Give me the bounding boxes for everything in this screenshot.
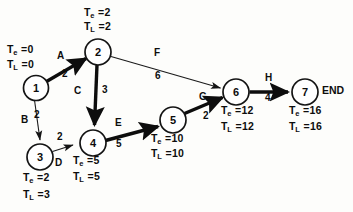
node-1-tl-value: 0 (28, 58, 34, 70)
edge-E-letter: E (115, 118, 122, 129)
node-3-te-value: 2 (43, 171, 49, 183)
node-4-tl: TL =5 (73, 171, 100, 182)
node-4-tl-value: 5 (94, 170, 100, 182)
node-5-te-value: 10 (171, 132, 183, 144)
edge-F-duration: 6 (155, 71, 161, 82)
node-4-te-value: 5 (93, 154, 99, 166)
node-7-number: 7 (302, 86, 308, 98)
node-6-tl: TL =12 (221, 121, 254, 132)
edge-C (95, 65, 98, 125)
edge-G-letter: G (199, 92, 207, 103)
node-2-tl: TL =2 (84, 21, 111, 32)
node-7-te-value: 16 (309, 104, 321, 116)
node-7-tl: TL =16 (289, 121, 322, 132)
node-1-te-value: 0 (27, 43, 33, 55)
edge-A-duration: 2 (62, 69, 68, 80)
edge-A-letter: A (57, 51, 64, 62)
node-1-number: 1 (33, 82, 39, 94)
edge-C-letter: C (74, 86, 81, 97)
node-3-tl: TL =3 (23, 189, 50, 200)
edge-F (111, 57, 221, 89)
node-5-tl-value: 10 (172, 147, 184, 159)
node-3-te: Te =2 (23, 172, 50, 183)
edge-D-letter: D (55, 158, 62, 169)
node-7-tl-value: 16 (310, 120, 322, 132)
node-3-tl-value: 3 (44, 188, 50, 200)
node-1-te: Te =0 (7, 44, 34, 55)
edge-B-letter: B (21, 115, 28, 126)
edge-B-duration: 2 (34, 110, 40, 121)
node-4-te: Te =5 (73, 155, 100, 166)
edge-D (53, 145, 74, 152)
node-2-number: 2 (95, 46, 101, 58)
end-label: END (322, 85, 344, 96)
node-6-te: Te =12 (221, 105, 254, 116)
node-4-number: 4 (90, 137, 97, 149)
edge-D-duration: 2 (57, 132, 63, 143)
node-6-tl-value: 12 (242, 120, 254, 132)
diagram-canvas: 1 2 3 4 5 6 7 A 2 B 2 C 3 D 2 E 5 F 6 G … (0, 0, 353, 212)
node-1-tl: TL =0 (7, 59, 34, 70)
edge-G-duration: 2 (203, 111, 209, 122)
node-7-te: Te =16 (289, 105, 322, 116)
edge-C-duration: 3 (102, 85, 108, 96)
node-5-number: 5 (170, 114, 176, 126)
edge-H-duration: 4 (265, 93, 271, 104)
edge-E-duration: 5 (116, 139, 122, 150)
node-5-te: Te =10 (151, 133, 184, 144)
edge-F-letter: F (154, 48, 160, 59)
node-2-te-value: 2 (104, 6, 110, 18)
node-2-tl-value: 2 (105, 20, 111, 32)
edge-H-letter: H (265, 73, 272, 84)
node-6-te-value: 12 (241, 104, 253, 116)
node-2-te: Te =2 (84, 7, 111, 18)
node-5-tl: TL =10 (151, 148, 184, 159)
node-3-number: 3 (37, 151, 43, 163)
node-6-number: 6 (233, 86, 239, 98)
